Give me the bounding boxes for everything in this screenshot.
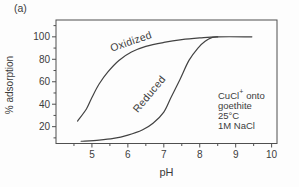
curve-label-reduced: Reduced [130, 73, 168, 115]
y-tick-label: 80 [39, 54, 51, 65]
x-tick-label: 6 [125, 149, 131, 160]
y-tick-label: 100 [33, 31, 50, 42]
annotation-formula-charge: + [239, 88, 243, 95]
x-tick-label: 10 [266, 149, 278, 160]
y-tick-label: 20 [39, 121, 51, 132]
x-tick-label: 9 [233, 149, 239, 160]
x-tick-label: 7 [161, 149, 167, 160]
figure: (a) 567891020406080100OxidizedReducedpH%… [0, 0, 299, 187]
x-axis-label: pH [159, 166, 173, 178]
annotation-line-4: 1M NaCl [218, 121, 265, 131]
y-axis-label: % adsorption [4, 56, 15, 114]
y-tick-label: 40 [39, 99, 51, 110]
y-tick-label: 60 [39, 76, 51, 87]
curve-label-oxidized: Oxidized [108, 28, 153, 53]
annotation: CuCl+onto goethite 25°C 1M NaCl [218, 91, 265, 131]
x-tick-label: 5 [89, 149, 95, 160]
x-tick-label: 8 [197, 149, 203, 160]
